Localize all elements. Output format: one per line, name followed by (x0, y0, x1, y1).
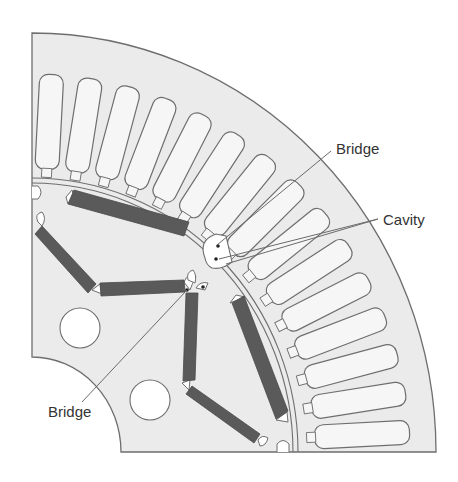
bridge-marker-dot (201, 285, 205, 289)
magnet-bottom-vertical-arm (183, 293, 198, 381)
rotor-notch-bottom (277, 441, 289, 453)
cavity-marker-dot (214, 257, 218, 261)
label-bridge-top: Bridge (336, 141, 379, 156)
cooling-hole-lower (130, 380, 170, 420)
rotor-notch-left (32, 186, 41, 199)
stator-slot (35, 74, 64, 170)
label-cavity: Cavity (383, 212, 425, 227)
cooling-hole-upper (60, 308, 100, 348)
label-bridge-bottom: Bridge (48, 404, 91, 419)
stator-slot (314, 420, 410, 449)
motor-cross-section-figure: Bridge Cavity Bridge (0, 0, 458, 482)
